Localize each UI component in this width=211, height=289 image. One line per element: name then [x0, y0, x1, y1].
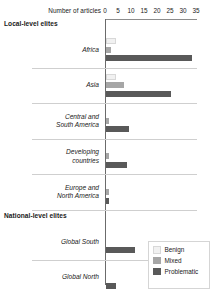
- legend-label: Problematic: [165, 268, 199, 275]
- legend-label: Benign: [165, 246, 185, 253]
- x-tick-label: 30: [179, 7, 186, 14]
- bar-problematic: [106, 55, 192, 61]
- category-label: Global South: [11, 238, 99, 246]
- category-label: Global North: [11, 273, 99, 281]
- x-axis-title: Number of articles: [0, 7, 101, 14]
- row-separator: [32, 174, 197, 175]
- bar-problematic: [106, 283, 116, 289]
- legend-item[interactable]: Problematic: [153, 268, 206, 276]
- category-label: Africa: [11, 46, 99, 54]
- x-tick-label: 0: [103, 7, 107, 14]
- bar-mixed: [106, 47, 111, 53]
- bar-benign: [106, 74, 116, 80]
- row-separator: [32, 68, 197, 69]
- bar-mixed: [106, 118, 109, 124]
- x-tick-label: 5: [116, 7, 120, 14]
- chart-legend: BenignMixedProblematic: [148, 241, 210, 289]
- legend-item[interactable]: Mixed: [153, 257, 206, 265]
- section-heading: National-level elites: [4, 212, 67, 219]
- row-separator: [32, 103, 197, 104]
- legend-swatch-benign: [153, 246, 161, 254]
- category-label: Asia: [11, 81, 99, 89]
- category-label: Developingcountries: [11, 148, 99, 164]
- x-tick-label: 15: [140, 7, 147, 14]
- x-tick-label: 35: [192, 7, 199, 14]
- category-label: Central andSouth America: [11, 113, 99, 129]
- x-axis-tick-labels: 05101520253035: [105, 7, 196, 16]
- bar-problematic: [106, 91, 171, 97]
- bar-problematic: [106, 162, 127, 168]
- row-separator: [32, 210, 197, 211]
- bar-benign: [106, 38, 116, 44]
- bar-mixed: [106, 82, 124, 88]
- bar-problematic: [106, 126, 129, 132]
- x-tick-label: 25: [166, 7, 173, 14]
- legend-swatch-mixed: [153, 257, 161, 265]
- legend-swatch-problematic: [153, 268, 161, 276]
- x-tick-label: 20: [153, 7, 160, 14]
- row-separator: [32, 139, 197, 140]
- bar-problematic: [106, 247, 135, 253]
- category-label: Europe andNorth America: [11, 184, 99, 200]
- x-tick-label: 10: [127, 7, 134, 14]
- bar-problematic: [106, 198, 109, 204]
- section-heading: Local-level elites: [4, 20, 58, 27]
- legend-item[interactable]: Benign: [153, 246, 206, 254]
- bar-mixed: [106, 153, 109, 159]
- bar-mixed: [106, 189, 109, 195]
- legend-label: Mixed: [165, 257, 182, 264]
- bar-chart: Number of articles 05101520253035 Local-…: [0, 0, 211, 289]
